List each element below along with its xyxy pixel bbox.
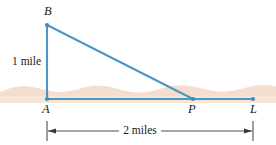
horizontal-dimension-label: 2 miles [119, 125, 161, 137]
figure-container: B A P L 1 mile 2 miles [0, 0, 276, 145]
vertex-dot-L [251, 97, 255, 101]
terrain-shading [0, 85, 276, 96]
vertex-label-P: P [188, 103, 196, 116]
vertical-length-label: 1 mile [12, 56, 41, 68]
vertex-dot-P [191, 97, 195, 101]
vertex-label-B: B [44, 5, 52, 18]
vertex-label-A: A [42, 103, 50, 116]
horizontal-dimension-label-wrapper: 2 miles [0, 125, 276, 137]
vertex-dot-B [45, 23, 49, 27]
vertex-dot-A [45, 97, 49, 101]
segment-hypotenuse-BP [47, 25, 193, 99]
vertex-label-L: L [250, 103, 257, 116]
